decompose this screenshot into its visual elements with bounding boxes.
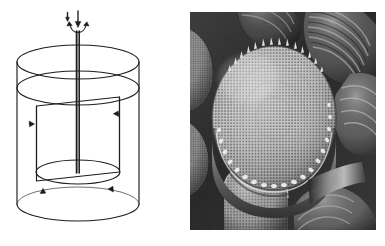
micrograph-veil	[190, 12, 376, 230]
figure-root: .ln { fill:none; stroke:#1d1d1d; stroke-…	[0, 0, 385, 246]
stirred-tank-diagram-svg: .ln { fill:none; stroke:#1d1d1d; stroke-…	[0, 0, 190, 246]
diatom-sem-micrograph-svg: Scanning electron micrograph of centric …	[190, 12, 376, 230]
diagram-background	[0, 0, 190, 246]
diatom-sem-micrograph-panel: Scanning electron micrograph of centric …	[190, 12, 376, 230]
stirred-tank-diagram-panel: .ln { fill:none; stroke:#1d1d1d; stroke-…	[0, 0, 190, 246]
